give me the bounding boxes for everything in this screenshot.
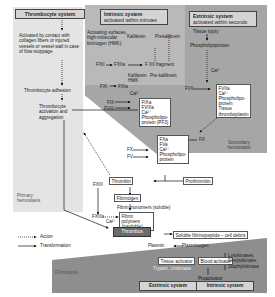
ca-label-fibrin: Ca²⁺	[106, 219, 116, 224]
thrombus-box: Thrombus	[113, 227, 151, 237]
fxii-label: FXII	[96, 62, 104, 67]
ca-label-extrinsic: Ca²⁺	[211, 68, 221, 73]
soluble-fibrinopeptide-box: Soluble fibrinopeptide – cell debris	[173, 231, 248, 239]
prekallikrein-label: Prekallikrein	[155, 34, 180, 39]
complex2-line: protein	[160, 157, 187, 162]
tissue-injury-label: Tissue injury	[193, 29, 219, 34]
extrinsic-subtitle: activated within seconds	[193, 19, 247, 25]
kallikrein-hmk-label: Kallikrein HMK	[128, 73, 146, 84]
fibrinolysis-intrinsic-box: Intrinsic system	[196, 281, 254, 291]
trypsin-label: Trypsin, Urokinase	[153, 266, 191, 271]
legend-action: Action	[40, 234, 53, 239]
fxa-complex-box: FXa FVa Ca²⁺ Phospholipo- protein	[157, 135, 189, 164]
thrombin-box: Thrombin	[109, 177, 133, 185]
fx-intrinsic-label: FX	[127, 147, 133, 152]
fixa-complex-box: FIXa FVIIIa Ca²⁺ Phospholipo- protein (P…	[139, 98, 171, 127]
fxiiia-label: FXIIIa	[92, 214, 104, 219]
fxiii-label: FXIII	[93, 182, 103, 187]
fviia-line: thromboplastin	[219, 112, 249, 117]
fibrinolysis-label: Fibrinolysis	[55, 270, 78, 275]
thrombocyte-activation-text: Activated by contact with collagen fiber…	[19, 33, 79, 55]
intrinsic-system-header: Intrinsic system activated within minute…	[100, 9, 168, 25]
fv-label: FV	[127, 154, 133, 159]
prothrombin-box: Prothrombin	[183, 177, 213, 185]
fibrinogen-box: Fibrinogen	[114, 194, 141, 202]
kallikrein-label: Kallikrein	[127, 34, 146, 39]
primary-hemostasis-label: Primary hemostasis	[17, 193, 43, 204]
fxiia-label: FXIIa	[114, 62, 125, 67]
fibrin-monomers-label: Fibrin monomers (soluble)	[117, 205, 170, 210]
fxii-fragment-label: F XII fragment	[145, 62, 174, 67]
fibrinolysis-extrinsic-box: Extrinsic system	[139, 281, 197, 291]
fxia-label: FXIa	[118, 84, 128, 89]
extrinsic-system-header: Extrinsic system activated within second…	[189, 11, 257, 27]
fvii-label: FVII	[185, 86, 193, 91]
phospholipoprotein-label: Phospholipoprotein	[190, 43, 229, 48]
plasminogen-label: Plasminogen	[182, 243, 209, 248]
secondary-hemostasis-label: Secondary hemostasis	[224, 140, 254, 151]
thrombocyte-aggregation-text: Thrombocyte activation and aggregation	[39, 104, 71, 120]
ca-label-1: Ca²⁺	[130, 91, 140, 96]
lysokinases-label: Lysokinases, Streptokinase, Staphylokina…	[228, 253, 266, 269]
pre-kallikrein-label: Pre-kallikrein	[150, 73, 177, 78]
thrombocyte-adhesion-text: Thrombocyte adhesion	[24, 88, 71, 93]
plasmin-label: Plasmin	[148, 243, 164, 248]
thrombocyte-system-header: Thrombocyte system	[15, 9, 85, 19]
fxi-label: FXI	[100, 84, 107, 89]
tissue-activator-box: Tissue activator	[158, 257, 195, 265]
fviii-label: FVIII	[104, 106, 114, 111]
fviia-complex-box: FVIIa Ca²⁺ Phospholipo- protein Tissue t…	[216, 84, 251, 118]
activating-surfaces-text: Activating surfaces, high-molecular kini…	[87, 30, 127, 46]
fx-extrinsic-label: FX	[199, 137, 205, 142]
fix-label: FIX	[107, 100, 114, 105]
complex1-line: protein (PF3)	[142, 120, 169, 125]
intrinsic-subtitle: activated within minutes	[104, 17, 157, 23]
legend-transformation: Transformation	[40, 243, 71, 248]
